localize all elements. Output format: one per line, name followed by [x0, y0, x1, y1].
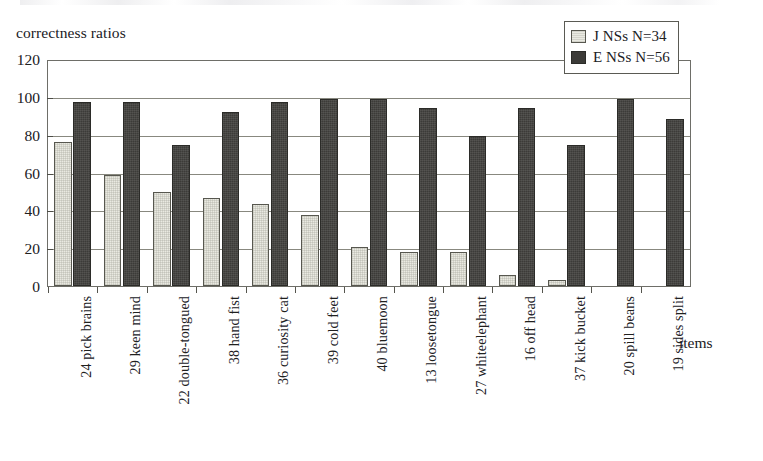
x-tick-label: 27 whiteelephant [474, 296, 488, 395]
x-tick-label: 13 loosetongue [424, 296, 438, 384]
x-tick-label: 37 kick bucket [573, 296, 587, 381]
legend-item-j: J NSs N=34 [571, 26, 670, 47]
y-tick-mark-20 [47, 249, 53, 250]
x-tick-label: 40 bluemoon [375, 296, 389, 372]
x-tick-mark [492, 287, 493, 293]
x-tick-label: 16 off head [523, 296, 537, 361]
legend-swatch-j-icon [571, 30, 586, 43]
x-tick-mark [591, 287, 592, 293]
legend-item-e: E NSs N=56 [571, 47, 670, 68]
y-tick-mark-60 [47, 174, 53, 175]
x-axis-title: items [679, 334, 713, 352]
x-tick-mark [641, 287, 642, 293]
y-tick-mark-40 [47, 211, 53, 212]
x-tick-label: 36 curiosity cat [276, 296, 290, 385]
x-tick-mark [48, 287, 49, 293]
chart-legend: J NSs N=34 E NSs N=56 [564, 21, 679, 74]
x-tick-label: 20 spill beans [622, 296, 636, 375]
y-tick-mark-80 [47, 136, 53, 137]
x-tick-mark [147, 287, 148, 293]
x-tick-mark [246, 287, 247, 293]
legend-swatch-e-icon [571, 51, 586, 64]
x-tick-mark [443, 287, 444, 293]
x-tick-mark [344, 287, 345, 293]
x-tick-mark [295, 287, 296, 293]
x-tick-mark [394, 287, 395, 293]
x-tick-mark [97, 287, 98, 293]
x-tick-label: 22 double-tongued [177, 296, 191, 404]
legend-label-e: E NSs N=56 [593, 49, 670, 66]
bar-chart: correctness ratios 020406080100120 24 pi… [0, 0, 763, 461]
legend-label-j: J NSs N=34 [593, 28, 667, 45]
x-tick-label: 29 keen mind [128, 296, 142, 374]
y-tick-mark-100 [47, 98, 53, 99]
x-tick-label: 24 pick brains [79, 296, 93, 378]
x-tick-label: 38 hand fist [227, 296, 241, 364]
x-tick-mark [196, 287, 197, 293]
x-tick-label: 39 cold feet [326, 296, 340, 364]
x-tick-mark [542, 287, 543, 293]
